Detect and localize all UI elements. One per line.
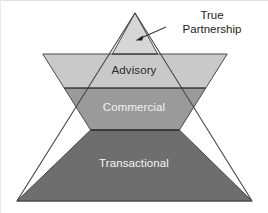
callout-line-1: True <box>160 8 264 22</box>
callout-true-partnership: True Partnership <box>160 8 264 36</box>
pyramid-diagram-figure: Advisory Commercial Transactional True P… <box>0 0 268 213</box>
pyramid-label-advisory: Advisory <box>0 64 268 76</box>
callout-line-2: Partnership <box>160 22 264 36</box>
pyramid-label-commercial: Commercial <box>0 101 268 113</box>
pyramid-label-transactional: Transactional <box>0 157 268 169</box>
